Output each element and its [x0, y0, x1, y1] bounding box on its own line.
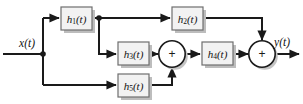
block-h2-label: h2(t)	[178, 12, 198, 26]
block-diagram-figure: h1(t) h2(t) h3(t) h4(t) h5(t)	[0, 0, 303, 104]
block-h1[interactable]: h1(t)	[61, 7, 95, 33]
block-h4[interactable]: h4(t)	[202, 42, 236, 68]
summing-junction-2-plus: +	[258, 47, 265, 61]
output-signal-label: y(t)	[273, 36, 290, 49]
block-h5-label: h5(t)	[124, 79, 144, 93]
block-h3[interactable]: h3(t)	[118, 42, 152, 68]
block-diagram-canvas: h1(t) h2(t) h3(t) h4(t) h5(t)	[0, 0, 303, 104]
block-h4-label: h4(t)	[208, 47, 228, 61]
input-signal-label: x(t)	[18, 37, 35, 50]
summing-junction-1[interactable]: +	[159, 41, 188, 70]
block-h5[interactable]: h5(t)	[118, 74, 152, 100]
block-h2[interactable]: h2(t)	[172, 7, 206, 33]
junction-dot-input-split	[40, 51, 46, 57]
block-h3-label: h3(t)	[124, 47, 144, 61]
summing-junction-1-plus: +	[168, 47, 175, 61]
wire-branch-to-h3	[99, 18, 116, 54]
wire-h5-to-sum1	[149, 68, 172, 85]
junction-dot-h1-split	[96, 15, 102, 21]
block-h1-label: h1(t)	[67, 12, 87, 26]
wire-h2-to-sum2	[203, 18, 262, 40]
